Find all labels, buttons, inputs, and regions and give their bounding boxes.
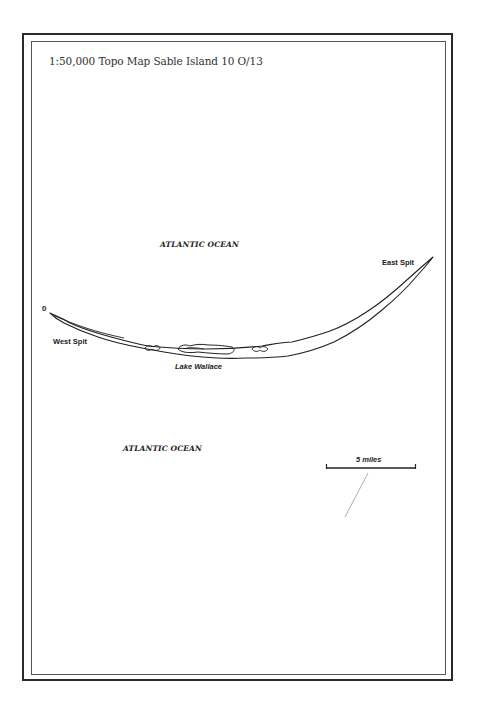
ocean-label-north: ATLANTIC OCEAN (160, 240, 239, 249)
pond-east (252, 347, 268, 352)
faint-pointer-line (345, 473, 368, 517)
west-spit-inner-line (55, 316, 124, 338)
east-spit-label: East Spit (382, 258, 414, 267)
west-spit-label: West Spit (53, 337, 87, 346)
scale-bar (326, 464, 416, 469)
ocean-label-south: ATLANTIC OCEAN (123, 444, 202, 453)
island-outline-drawing (0, 0, 477, 706)
west-marker-label: 0 (42, 304, 46, 313)
lake-wallace-label: Lake Wallace (175, 362, 222, 371)
map-sheet: 1:50,000 Topo Map Sable Island 10 O/13 0… (0, 0, 477, 706)
pond-west (145, 346, 160, 351)
sable-island-outline (50, 257, 433, 358)
scale-bar-label: 5 miles (356, 455, 381, 464)
